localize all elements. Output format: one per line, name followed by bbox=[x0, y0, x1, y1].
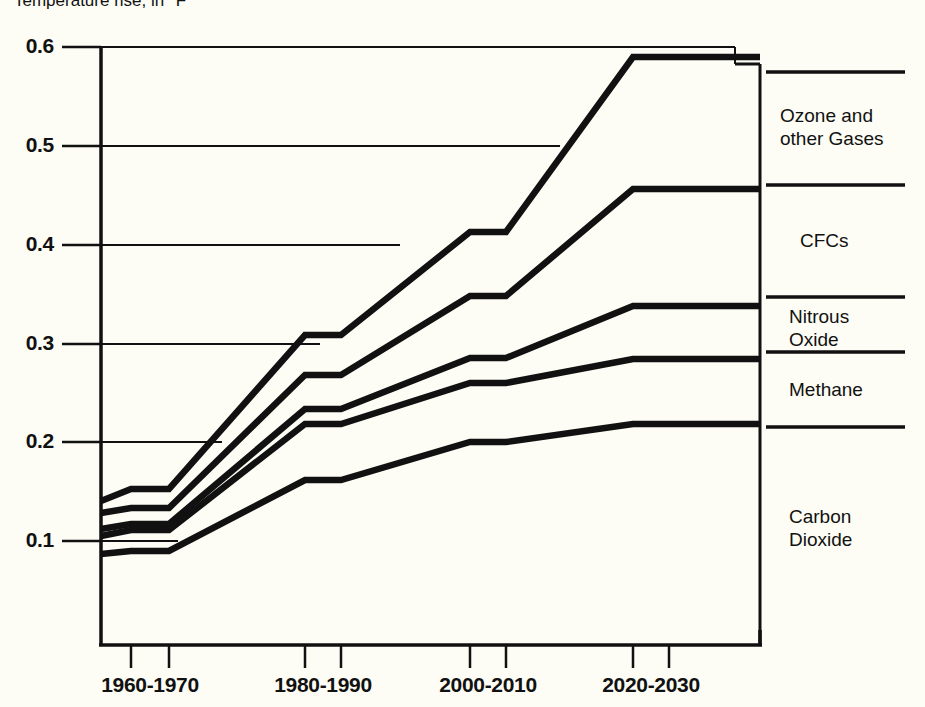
y-tick-label-0-5: 0.5 bbox=[2, 133, 54, 157]
x-tick-label-1980-1990: 1980-1990 bbox=[253, 673, 393, 697]
series-line-carbon-dioxide bbox=[101, 424, 760, 554]
legend-item-carbon-dioxide: Carbon Dioxide bbox=[789, 505, 852, 551]
x-tick-label-2000-2010: 2000-2010 bbox=[418, 673, 558, 697]
y-tick-label-0-4: 0.4 bbox=[2, 232, 54, 256]
x-tick-label-2020-2030: 2020-2030 bbox=[581, 673, 721, 697]
legend-item-nitrous-oxide: Nitrous Oxide bbox=[789, 305, 849, 351]
series-line-nitrous-oxide bbox=[101, 306, 760, 529]
legend-item-ozone-and-other-gases: Ozone and other Gases bbox=[780, 104, 884, 150]
series-line-cfcs bbox=[101, 189, 760, 513]
x-tick-marks bbox=[131, 645, 669, 668]
axes bbox=[99, 47, 762, 645]
y-tick-label-0-6: 0.6 bbox=[2, 34, 54, 58]
chart-container: Temperature rise, in °F bbox=[0, 0, 925, 707]
legend-item-methane: Methane bbox=[789, 378, 863, 401]
series-line-ozone-and-other-gases bbox=[101, 57, 760, 501]
gridlines bbox=[62, 47, 735, 541]
x-tick-label-1960-1970: 1960-1970 bbox=[80, 673, 220, 697]
legend-item-cfcs: CFCs bbox=[800, 229, 849, 252]
y-tick-label-0-2: 0.2 bbox=[2, 429, 54, 453]
series-line-methane bbox=[101, 359, 760, 536]
data-series-lines bbox=[101, 57, 760, 554]
y-tick-label-0-3: 0.3 bbox=[2, 331, 54, 355]
y-tick-label-0-1: 0.1 bbox=[2, 528, 54, 552]
